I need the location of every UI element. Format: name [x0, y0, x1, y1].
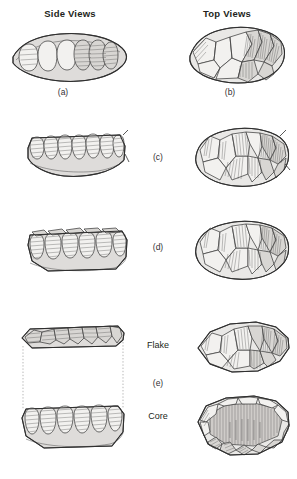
caption-b: (b)	[200, 87, 260, 97]
caption-d: (d)	[128, 242, 188, 252]
illustration-c-top-view	[192, 122, 292, 194]
label-flake: Flake	[128, 340, 188, 350]
illustration-e-flake-top-view	[196, 318, 292, 378]
illustration-e-side-view	[20, 320, 130, 460]
illustration-d-side-view	[24, 221, 132, 279]
illustration-a-side-view	[10, 24, 130, 86]
illustration-c-side-view	[24, 126, 132, 184]
caption-a: (a)	[33, 87, 93, 97]
column-header-top-views: Top Views	[157, 8, 297, 19]
column-header-side-views: Side Views	[0, 8, 140, 19]
illustration-e-core-top-view	[196, 392, 292, 462]
caption-c: (c)	[128, 152, 188, 162]
caption-e: (e)	[128, 378, 188, 388]
illustration-b-top-view	[186, 22, 288, 88]
label-core: Core	[128, 411, 188, 421]
lithic-reduction-figure: Side Views Top Views	[0, 0, 297, 479]
illustration-d-top-view	[192, 216, 292, 286]
